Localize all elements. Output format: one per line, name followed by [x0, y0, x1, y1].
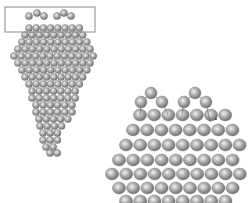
atom: [79, 59, 86, 66]
atom: [21, 73, 28, 80]
atom: [22, 45, 29, 52]
atom: [47, 136, 54, 143]
atom: [14, 45, 21, 52]
atom: [35, 115, 42, 122]
atom: [134, 168, 147, 180]
atom: [69, 66, 76, 73]
atom: [58, 122, 65, 129]
atom: [40, 80, 47, 87]
atom: [155, 124, 168, 136]
atom: [155, 154, 168, 166]
atom: [219, 195, 232, 203]
atom: [134, 139, 147, 151]
atom: [47, 38, 54, 45]
atom: [57, 87, 64, 94]
atom: [68, 101, 75, 108]
atom: [25, 24, 32, 31]
atom: [10, 52, 17, 59]
adatom: [25, 12, 32, 19]
atom: [198, 182, 211, 194]
atom: [176, 168, 189, 180]
atom: [68, 52, 75, 59]
atom: [40, 108, 47, 115]
atom: [61, 108, 68, 115]
atom: [36, 122, 43, 129]
adatom: [189, 87, 201, 99]
atom: [72, 94, 79, 101]
atom: [219, 168, 232, 180]
atom: [76, 80, 83, 87]
atom: [54, 108, 61, 115]
atom: [57, 115, 64, 122]
atom: [65, 45, 72, 52]
atom: [43, 87, 50, 94]
atom: [39, 52, 46, 59]
atom: [90, 52, 97, 59]
atom: [219, 109, 232, 121]
atom: [46, 149, 53, 156]
atom: [72, 45, 79, 52]
atom: [183, 182, 196, 194]
atom: [47, 129, 54, 136]
atom: [169, 182, 182, 194]
atom: [50, 59, 57, 66]
atom: [119, 139, 132, 151]
atom: [43, 73, 50, 80]
atom: [14, 59, 21, 66]
atom: [190, 109, 203, 121]
atom: [226, 124, 239, 136]
atom: [33, 80, 40, 87]
atom: [50, 87, 57, 94]
atom: [86, 59, 93, 66]
atom: [219, 139, 232, 151]
atomic-structure-diagram: [0, 0, 250, 203]
atom: [127, 154, 140, 166]
atom: [43, 59, 50, 66]
adatom: [60, 9, 67, 16]
atom: [191, 168, 204, 180]
atom: [26, 38, 33, 45]
adatom: [53, 12, 60, 19]
atom: [76, 66, 83, 73]
atom: [39, 136, 46, 143]
atom: [47, 108, 54, 115]
atom: [119, 195, 132, 203]
atom: [183, 154, 196, 166]
atom: [18, 52, 25, 59]
atom: [72, 87, 79, 94]
atom: [148, 139, 161, 151]
atom: [50, 73, 57, 80]
atom: [54, 101, 61, 108]
atom: [36, 45, 43, 52]
atom: [32, 52, 39, 59]
atom: [61, 80, 68, 87]
atom: [64, 94, 71, 101]
atom: [33, 66, 40, 73]
atom: [197, 124, 210, 136]
atom: [50, 115, 57, 122]
atom: [112, 182, 125, 194]
atom: [176, 139, 189, 151]
atom: [212, 182, 225, 194]
atom: [57, 94, 64, 101]
atom: [58, 59, 65, 66]
atom: [83, 38, 90, 45]
atom: [120, 168, 133, 180]
adatom: [156, 96, 168, 108]
atom: [32, 108, 39, 115]
atom: [79, 73, 86, 80]
atom: [64, 87, 71, 94]
atom: [36, 87, 43, 94]
atom: [190, 195, 203, 203]
atom: [155, 182, 168, 194]
atom: [40, 101, 47, 108]
atom: [190, 139, 203, 151]
atom: [127, 182, 140, 194]
atom: [36, 73, 43, 80]
atom: [36, 94, 43, 101]
atom: [69, 38, 76, 45]
atom: [141, 182, 154, 194]
atom: [233, 168, 246, 180]
atom: [162, 168, 175, 180]
atom: [43, 115, 50, 122]
